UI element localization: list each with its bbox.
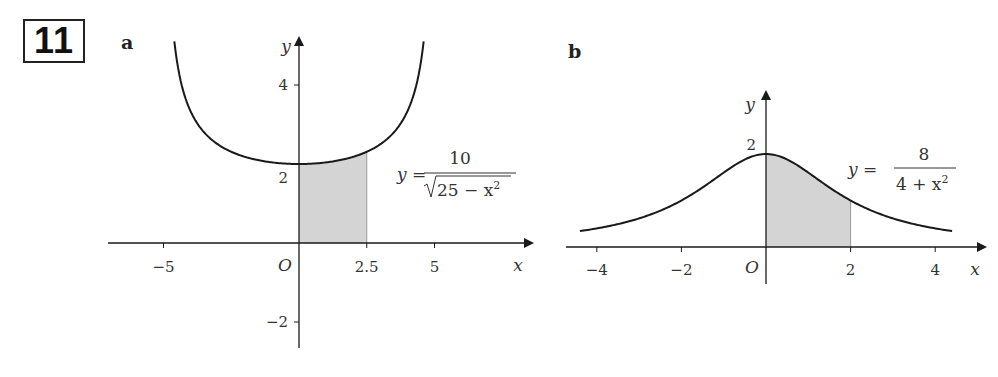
graph-b-x-axis-label: x bbox=[970, 259, 980, 279]
graph-a-shaded-area bbox=[299, 152, 367, 243]
graph-b-eq-exponent: 2 bbox=[941, 173, 948, 186]
graph-b-x-tick-label: −2 bbox=[670, 261, 692, 279]
graph-a-x-tick-label: 2.5 bbox=[355, 258, 379, 276]
graph-a-x-tick-label: 5 bbox=[430, 258, 440, 276]
graph-b-y-tick-label: 2 bbox=[746, 136, 756, 154]
graph-a-y-tick-label: −2 bbox=[266, 313, 288, 331]
graph-a-eq-radicand-text: 25 − x bbox=[437, 180, 494, 200]
graph-a-y-tick-label: 4 bbox=[278, 76, 288, 94]
graph-b-x-tick-label: 2 bbox=[846, 261, 856, 279]
graph-a-eq-numerator: 10 bbox=[449, 148, 471, 168]
graph-a: −52.55 42−2 O x y y = 10 25 − x2 bbox=[108, 36, 532, 348]
graph-a-y-tick-label: 2 bbox=[278, 169, 288, 187]
graph-a-x-axis-label: x bbox=[513, 255, 523, 275]
figure-canvas: −52.55 42−2 O x y y = 10 25 − x2 −4−224 … bbox=[0, 0, 998, 377]
graph-b-x-tick-label: 4 bbox=[930, 261, 940, 279]
graph-b-origin-label: O bbox=[745, 257, 759, 277]
graph-a-origin-label: O bbox=[278, 255, 292, 275]
graph-a-eq-radicand: 25 − x2 bbox=[437, 179, 500, 200]
graph-a-y-axis-label: y bbox=[280, 36, 291, 56]
graph-b-eq-denominator-text: 4 + x bbox=[896, 174, 942, 194]
graph-b-equation: y = 8 4 + x2 bbox=[847, 144, 956, 194]
graph-b-eq-lhs: y = bbox=[847, 159, 877, 179]
graph-b-y-axis-label: y bbox=[744, 94, 755, 114]
graph-a-eq-exponent: 2 bbox=[493, 179, 500, 192]
graph-b: −4−224 2 O x y y = 8 4 + x2 bbox=[566, 92, 985, 284]
graph-a-equation: y = 10 25 − x2 bbox=[396, 148, 516, 200]
graph-b-eq-denominator: 4 + x2 bbox=[896, 173, 948, 194]
graph-a-x-tick-label: −5 bbox=[152, 258, 174, 276]
graph-a-eq-lhs: y = bbox=[396, 164, 426, 184]
graph-b-shaded-area bbox=[766, 154, 851, 247]
graph-b-eq-numerator: 8 bbox=[919, 144, 930, 164]
graph-b-x-tick-label: −4 bbox=[586, 261, 608, 279]
